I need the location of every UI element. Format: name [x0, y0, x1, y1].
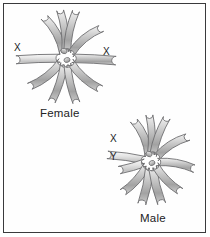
- male-caption: Male: [140, 213, 166, 225]
- male-y-chromosome-label: Y: [110, 152, 117, 162]
- female-central-chromosome-lower: [63, 57, 70, 63]
- female-x-chromosome-label-right: X: [103, 47, 110, 57]
- female-x-chromosome-label-left: X: [14, 43, 21, 53]
- female-sex-chromosome-x-left: [16, 54, 60, 64]
- chromosome-spread-figure: Female Male X X X Y: [0, 0, 210, 237]
- chromosome-illustration: [0, 0, 210, 237]
- male-x-chromosome-label: X: [110, 134, 117, 144]
- female-caption: Female: [40, 108, 80, 120]
- female-chromosome-spread: [16, 10, 116, 104]
- male-central-chromosome-lower: [148, 160, 155, 167]
- male-chromosome-spread: [107, 115, 195, 205]
